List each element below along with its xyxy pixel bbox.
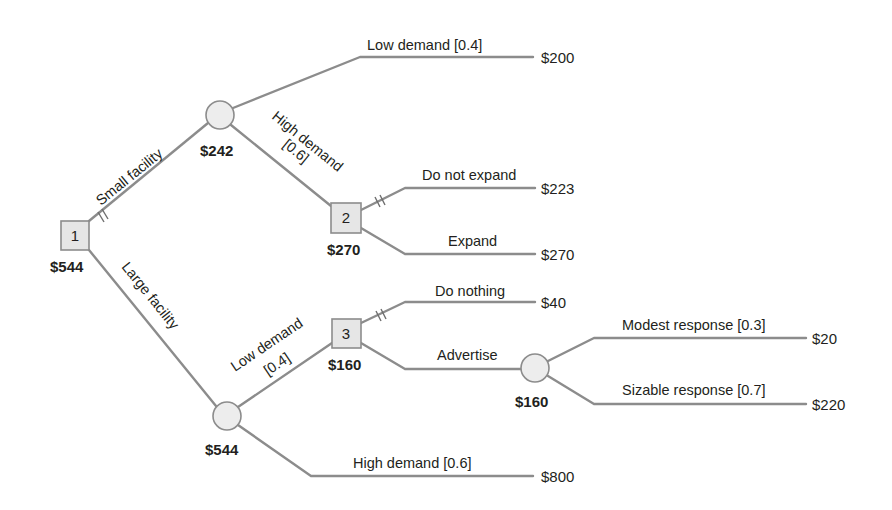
- payoff-sizable: $220: [812, 396, 845, 413]
- edge-small-facility: [89, 123, 208, 221]
- decision-node-3-value: $160: [328, 356, 361, 373]
- decision-node-2: 2: [331, 203, 361, 233]
- label-advertise: Advertise: [437, 347, 497, 363]
- label-modest-response: Modest response [0.3]: [622, 317, 765, 333]
- label-sizable-response: Sizable response [0.7]: [622, 382, 765, 398]
- payoff-do-not-expand: $223: [541, 180, 574, 197]
- decision-node-2-value: $270: [327, 241, 360, 258]
- edge-do-not-expand: [361, 188, 535, 210]
- label-do-not-expand: Do not expand: [422, 167, 516, 183]
- chance-node-small-value: $242: [200, 142, 233, 159]
- edge-small-low-demand: [233, 57, 533, 108]
- decision-node-2-id: 2: [342, 209, 350, 226]
- label-do-nothing: Do nothing: [435, 283, 505, 299]
- decision-node-3-id: 3: [342, 325, 350, 342]
- payoff-modest: $20: [812, 330, 837, 347]
- label-large-facility: Large facility: [119, 259, 183, 333]
- edges: [89, 57, 806, 476]
- edge-modest-response: [548, 338, 806, 361]
- payoff-small-low: $200: [541, 49, 574, 66]
- label-small-facility: Small facility: [93, 145, 166, 209]
- label-expand: Expand: [448, 233, 497, 249]
- decision-node-1: 1: [61, 221, 89, 250]
- decision-tree-diagram: 1 $544 2 $270 3 $160 $242 $544 $160 Smal…: [0, 0, 892, 510]
- chance-node-small: [206, 101, 234, 129]
- chance-node-large-value: $544: [205, 441, 239, 458]
- decision-node-1-id: 1: [71, 227, 79, 244]
- payoff-do-nothing: $40: [541, 294, 566, 311]
- chance-node-advertise-value: $160: [515, 393, 548, 410]
- chance-node-advertise: [521, 354, 549, 382]
- decision-node-3: 3: [332, 319, 361, 348]
- label-small-low-demand: Low demand [0.4]: [367, 37, 482, 53]
- edge-do-nothing: [361, 302, 535, 323]
- label-large-high-demand: High demand [0.6]: [353, 455, 472, 471]
- payoff-large-high: $800: [541, 468, 574, 485]
- payoff-expand: $270: [541, 246, 574, 263]
- edge-large-facility: [89, 250, 216, 406]
- decision-node-1-value: $544: [50, 258, 84, 275]
- chance-node-large: [213, 402, 241, 430]
